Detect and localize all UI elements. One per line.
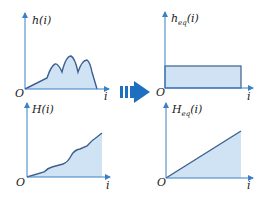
x-axis-label: i bbox=[247, 179, 251, 192]
right-arrow-icon bbox=[120, 81, 150, 103]
x-axis-label: i bbox=[106, 179, 110, 192]
histogram-equalization-diagram: h(i) O i heq(i) O i H(i) O i Heq(i) O i bbox=[0, 0, 269, 197]
panel-equalized-histogram: heq(i) O i bbox=[156, 12, 253, 103]
y-axis-label: heq(i) bbox=[171, 12, 199, 27]
equalized-histogram-bar bbox=[165, 66, 241, 88]
x-axis-label: i bbox=[104, 90, 108, 103]
panel-cumulative-histogram: H(i) O i bbox=[16, 103, 110, 192]
y-axis-label: Heq(i) bbox=[171, 103, 202, 118]
y-axis-label: H(i) bbox=[31, 103, 54, 116]
origin-label: O bbox=[16, 176, 25, 189]
origin-label: O bbox=[156, 86, 165, 99]
panel-histogram: h(i) O i bbox=[15, 13, 109, 103]
y-axis-label: h(i) bbox=[32, 14, 51, 27]
panel-equalized-cumulative: Heq(i) O i bbox=[157, 103, 253, 192]
origin-label: O bbox=[15, 87, 24, 100]
x-axis-label: i bbox=[247, 90, 251, 103]
origin-label: O bbox=[157, 176, 166, 189]
cumulative-fill bbox=[27, 133, 102, 177]
